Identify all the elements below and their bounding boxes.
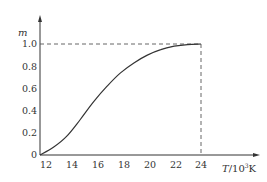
x-tick-label: 20 (144, 159, 156, 170)
y-tick-label: 0.2 (22, 127, 37, 138)
axes (38, 15, 260, 157)
x-tick-label: 14 (66, 159, 78, 170)
x-tick-label: 16 (92, 159, 104, 170)
data-curve (40, 44, 201, 155)
x-tick-label: 12 (40, 159, 52, 170)
x-tick-labels: 12 14 16 18 20 22 24 (40, 159, 207, 170)
y-tick-label: 0.4 (22, 105, 37, 116)
x-axis-label-tail: K (249, 163, 257, 174)
x-axis-label-unit: /10 (229, 163, 245, 174)
y-axis-label: m (18, 27, 27, 38)
chart: m 0 0.2 0.4 0.6 0.8 1.0 12 14 16 18 20 2… (0, 0, 267, 182)
x-axis-arrow-icon (253, 153, 260, 157)
y-tick-label: 1.0 (22, 38, 37, 49)
x-tick-label: 24 (195, 159, 207, 170)
x-tick-label: 18 (118, 159, 130, 170)
y-tick-labels: 0 0.2 0.4 0.6 0.8 1.0 (22, 38, 37, 160)
y-tick-label: 0.6 (22, 83, 37, 94)
y-tick-label: 0.8 (22, 61, 37, 72)
x-tick-label: 22 (170, 159, 182, 170)
y-tick-label: 0 (31, 149, 37, 160)
y-axis-arrow-icon (38, 15, 42, 22)
x-axis-label: T/103K (222, 162, 257, 174)
